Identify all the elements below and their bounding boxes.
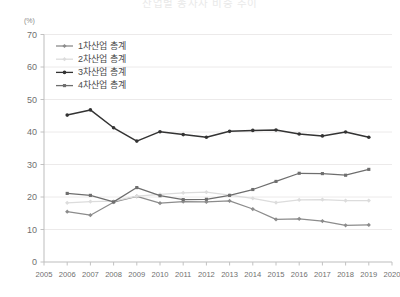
data-point-marker <box>344 174 347 177</box>
x-tick-label: 2017 <box>314 270 331 279</box>
data-point-marker <box>182 198 185 201</box>
x-tick-label: 2012 <box>198 270 215 279</box>
y-tick-label: 0 <box>32 257 37 267</box>
data-point-marker <box>321 134 325 138</box>
x-tick-label: 2015 <box>268 270 285 279</box>
data-series <box>65 108 370 143</box>
data-point-marker <box>181 191 185 195</box>
x-tick-label: 2011 <box>175 270 191 279</box>
x-axis-ticks: 2005200620072008200920102011201220132014… <box>36 270 400 279</box>
data-point-marker <box>65 201 69 205</box>
x-tick-label: 2019 <box>360 270 377 279</box>
line-chart-plot: 010203040506070 200520062007200820092010… <box>0 0 400 297</box>
data-point-marker <box>62 57 66 61</box>
data-point-marker <box>343 198 347 202</box>
data-point-marker <box>227 199 231 203</box>
data-series-group <box>65 108 371 227</box>
legend-label: 2차산업 총계 <box>78 53 126 64</box>
data-point-marker <box>62 44 66 48</box>
y-tick-label: 10 <box>27 225 37 235</box>
data-point-marker <box>367 135 371 139</box>
data-point-marker <box>251 188 254 191</box>
data-point-marker <box>298 172 301 175</box>
data-point-marker <box>343 223 347 227</box>
data-point-marker <box>297 217 301 221</box>
y-axis-ticks: 010203040506070 <box>27 30 37 267</box>
chart-container: 산업별 종사자 비중 추이 (%) 010203040506070 200520… <box>0 0 400 297</box>
data-point-marker <box>205 135 209 139</box>
chart-legend: 1차산업 총계2차산업 총계3차산업 총계4차산업 총계 <box>56 40 126 91</box>
data-point-marker <box>158 130 162 134</box>
x-tick-label: 2009 <box>128 270 145 279</box>
data-point-marker <box>274 217 278 221</box>
data-point-marker <box>66 192 69 195</box>
y-tick-label: 30 <box>27 160 37 170</box>
data-point-marker <box>228 130 232 134</box>
legend-item[interactable]: 4차산업 총계 <box>56 79 126 90</box>
x-tick-label: 2006 <box>59 270 76 279</box>
data-series <box>66 168 371 204</box>
data-point-marker <box>205 198 208 201</box>
legend-label: 3차산업 총계 <box>78 66 126 77</box>
data-point-marker <box>204 190 208 194</box>
data-point-marker <box>89 108 93 112</box>
data-point-marker <box>320 197 324 201</box>
y-tick-label: 40 <box>27 127 37 137</box>
data-point-marker <box>158 201 162 205</box>
data-point-marker <box>251 207 255 211</box>
data-point-marker <box>251 129 255 133</box>
data-point-marker <box>181 133 185 137</box>
legend-item[interactable]: 2차산업 총계 <box>56 53 126 64</box>
data-point-marker <box>135 186 138 189</box>
data-point-marker <box>274 128 278 132</box>
data-point-marker <box>89 194 92 197</box>
data-point-marker <box>297 132 301 136</box>
data-point-marker <box>88 199 92 203</box>
data-point-marker <box>135 139 139 143</box>
legend-label: 1차산업 총계 <box>78 40 126 51</box>
data-point-marker <box>367 168 370 171</box>
data-point-marker <box>367 198 371 202</box>
data-point-marker <box>65 113 69 117</box>
x-tick-label: 2020 <box>384 270 400 279</box>
y-tick-label: 60 <box>27 62 37 72</box>
data-point-marker <box>367 223 371 227</box>
data-point-marker <box>274 200 278 204</box>
x-tick-label: 2007 <box>82 270 99 279</box>
y-tick-label: 70 <box>27 30 37 40</box>
y-tick-label: 50 <box>27 95 37 105</box>
data-point-marker <box>158 194 161 197</box>
x-tick-label: 2018 <box>337 270 354 279</box>
data-point-marker <box>320 219 324 223</box>
data-point-marker <box>63 71 67 75</box>
data-point-marker <box>65 210 69 214</box>
y-tick-label: 20 <box>27 192 37 202</box>
legend-item[interactable]: 3차산업 총계 <box>56 66 126 77</box>
data-point-marker <box>112 126 116 130</box>
legend-label: 4차산업 총계 <box>78 79 126 90</box>
data-point-marker <box>321 172 324 175</box>
x-tick-label: 2008 <box>105 270 122 279</box>
x-tick-label: 2010 <box>152 270 169 279</box>
data-point-marker <box>344 130 348 134</box>
legend-item[interactable]: 1차산업 총계 <box>56 40 126 51</box>
x-tick-label: 2013 <box>221 270 238 279</box>
data-point-marker <box>112 200 115 203</box>
data-point-marker <box>297 198 301 202</box>
data-point-marker <box>63 84 66 87</box>
data-point-marker <box>228 194 231 197</box>
data-point-marker <box>274 180 277 183</box>
x-tick-label: 2005 <box>36 270 53 279</box>
x-tick-label: 2014 <box>244 270 261 279</box>
x-tick-label: 2016 <box>291 270 308 279</box>
